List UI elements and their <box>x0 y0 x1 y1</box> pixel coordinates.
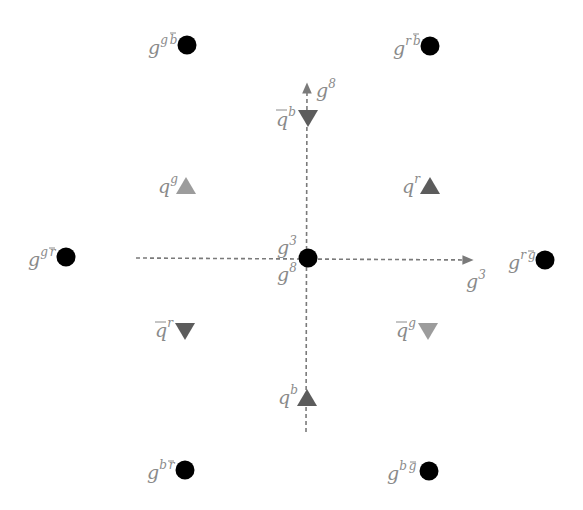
gluon-g-rbar: ggr <box>28 245 76 270</box>
center-label-g3: g3 <box>277 234 297 258</box>
quark-g: qg <box>158 172 196 197</box>
svg-text:qr: qr <box>155 316 174 341</box>
weight-diagram: g8 g3 g3 g8 ggb grb ggr grg gbr gbg <box>0 0 583 510</box>
g8-axis-label: g8 <box>316 77 336 101</box>
antiquark-b: qb <box>276 105 318 130</box>
gluon-r-gbar: grg <box>508 248 555 273</box>
gluon-b-rbar: gbr <box>147 458 195 483</box>
svg-text:grb: grb <box>393 34 421 59</box>
center-label-g8: g8 <box>277 261 297 285</box>
svg-text:qb: qb <box>278 383 298 408</box>
antiquark-r: qr <box>155 316 195 341</box>
g3-axis-label: g3 <box>466 268 486 292</box>
quark-r: qr <box>402 172 440 197</box>
svg-text:ggb: ggb <box>148 33 178 58</box>
svg-text:gbr: gbr <box>147 458 176 483</box>
quark-b: qb <box>278 383 317 408</box>
svg-text:qg: qg <box>158 172 178 197</box>
svg-text:gbg: gbg <box>387 459 417 484</box>
gluon-g-bbar: ggb <box>148 33 197 58</box>
center-gluons-dot <box>299 249 318 268</box>
svg-text:qr: qr <box>402 172 421 197</box>
svg-text:ggr: ggr <box>28 245 57 270</box>
antiquark-g: qg <box>396 316 438 341</box>
svg-text:qg: qg <box>396 316 416 341</box>
gluon-b-gbar: gbg <box>387 459 439 484</box>
gluon-r-bbar: grb <box>393 34 440 59</box>
svg-text:qb: qb <box>276 105 296 130</box>
svg-text:grg: grg <box>508 248 536 273</box>
